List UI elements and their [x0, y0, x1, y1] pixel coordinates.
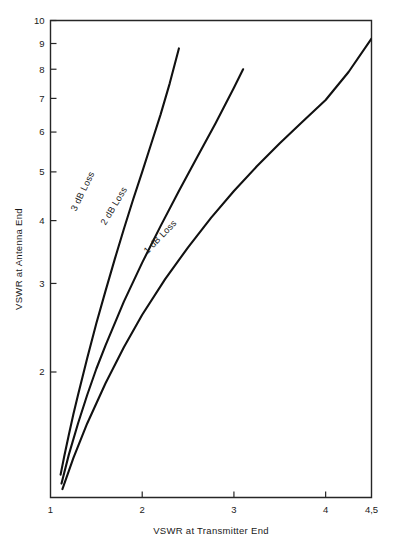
y-tick-label: 8: [39, 64, 44, 75]
y-tick-label: 10: [34, 15, 45, 26]
x-axis-title: VSWR at Transmitter End: [153, 525, 269, 536]
y-tick-label: 6: [39, 126, 44, 137]
chart-background: [0, 0, 397, 549]
chart-canvas: 1098765432 12344,5 3 dB Loss2 dB Loss1 d…: [0, 0, 397, 549]
y-tick-label: 3: [39, 278, 44, 289]
x-tick-label: 3: [231, 504, 236, 515]
y-tick-label: 7: [39, 93, 44, 104]
y-axis-title: VSWR at Antenna End: [13, 208, 24, 310]
vswr-chart: 1098765432 12344,5 3 dB Loss2 dB Loss1 d…: [0, 0, 397, 549]
y-tick-label: 2: [39, 366, 44, 377]
y-tick-label: 5: [39, 166, 44, 177]
x-tick-label: 2: [140, 504, 145, 515]
x-tick-label: 4,5: [365, 504, 378, 515]
x-tick-label: 4: [323, 504, 328, 515]
x-tick-label: 1: [48, 504, 53, 515]
y-tick-label: 4: [39, 215, 44, 226]
y-tick-label: 9: [39, 38, 44, 49]
